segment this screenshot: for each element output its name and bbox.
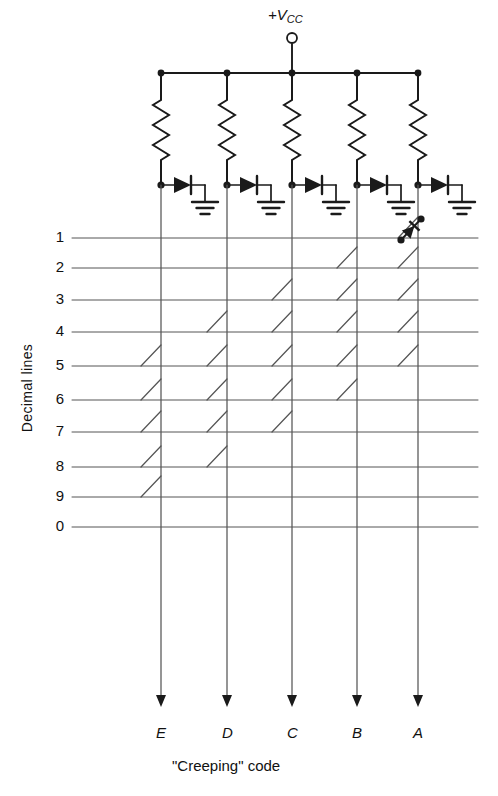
crosspoint-diagonal: [337, 345, 357, 366]
output-arrowhead: [352, 695, 362, 707]
decimal-row-label: 6: [46, 390, 64, 407]
decimal-row-label: 0: [46, 517, 64, 534]
decimal-row-label: 2: [46, 258, 64, 275]
diode-triangle: [240, 177, 257, 193]
crosspoint-diagonal: [141, 379, 161, 400]
crosspoint-diagonal: [272, 311, 292, 332]
decimal-lines-axis-label: Decimal lines: [19, 333, 35, 443]
resistor: [219, 73, 235, 185]
crosspoint-diagonal: [141, 411, 161, 432]
crosspoint-diode-matrix: [141, 217, 418, 497]
crosspoint-diagonal: [272, 345, 292, 366]
supply-rail: [158, 33, 422, 76]
crosspoint-diagonal: [141, 345, 161, 366]
resistor: [349, 73, 365, 185]
crosspoint-diagonal: [207, 311, 227, 332]
crosspoint-diagonal: [398, 279, 418, 300]
decimal-line-grid: [72, 238, 478, 527]
crosspoint-diagonal: [207, 345, 227, 366]
resistor: [410, 73, 426, 185]
crosspoint-diode-detail: [397, 215, 424, 243]
output-arrowhead: [413, 695, 423, 707]
crosspoint-diagonal: [272, 379, 292, 400]
detail-diode-node-lower: [397, 236, 404, 243]
crosspoint-diagonal: [337, 379, 357, 400]
detail-diode-node-upper: [417, 215, 424, 222]
crosspoint-diagonal: [398, 247, 418, 268]
output-column-label-c: C: [287, 724, 298, 741]
output-arrowhead: [156, 695, 166, 707]
resistor: [153, 73, 169, 185]
crosspoint-diagonal: [207, 446, 227, 467]
decimal-row-label: 7: [46, 422, 64, 439]
crosspoint-diagonal: [398, 345, 418, 366]
resistor: [284, 73, 300, 185]
diode-triangle: [431, 177, 448, 193]
decimal-row-label: 1: [46, 228, 64, 245]
crosspoint-diagonal: [141, 476, 161, 497]
crosspoint-diagonal: [337, 247, 357, 268]
crosspoint-diagonal: [207, 379, 227, 400]
supply-terminal-circle: [287, 33, 297, 43]
creeping-code-label: "Creeping" code: [172, 757, 280, 774]
output-column-label-d: D: [222, 724, 233, 741]
output-column-label-b: B: [352, 724, 362, 741]
diode-triangle: [174, 177, 191, 193]
supply-voltage-label: +VCC: [268, 6, 303, 25]
output-column-label-a: A: [413, 724, 423, 741]
output-arrowhead: [222, 695, 232, 707]
decimal-row-label: 8: [46, 457, 64, 474]
decimal-row-label: 4: [46, 322, 64, 339]
resistor-bank: [153, 73, 426, 185]
crosspoint-diagonal: [337, 311, 357, 332]
decimal-row-label: 3: [46, 290, 64, 307]
crosspoint-diagonal: [141, 446, 161, 467]
output-column-lines: [156, 185, 423, 707]
output-arrowhead: [287, 695, 297, 707]
crosspoint-diagonal: [398, 311, 418, 332]
decimal-row-label: 9: [46, 487, 64, 504]
crosspoint-diagonal: [272, 411, 292, 432]
crosspoint-diagonal: [337, 279, 357, 300]
diode-triangle: [305, 177, 322, 193]
crosspoint-diagonal: [207, 411, 227, 432]
decimal-row-label: 5: [46, 356, 64, 373]
clamp-diode-bank: [157, 176, 475, 214]
circuit-diagram: [0, 0, 498, 796]
diode-triangle: [370, 177, 387, 193]
crosspoint-diagonal: [272, 279, 292, 300]
output-column-label-e: E: [156, 724, 166, 741]
